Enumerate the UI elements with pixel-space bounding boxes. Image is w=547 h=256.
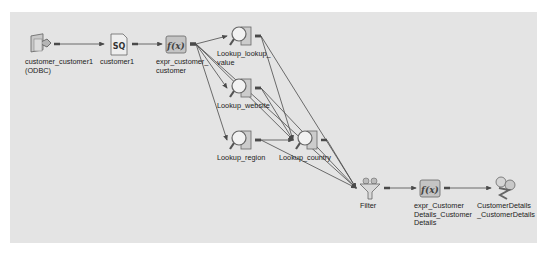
node-label: Lookup_country [279,154,331,163]
expression-transformation-icon[interactable]: f(x) [415,173,445,203]
svg-text:SQ: SQ [113,42,126,51]
filter-transformation-icon[interactable] [355,173,385,203]
node-label: expr_Customer Details_Customer Details [414,202,472,228]
source-definition-icon[interactable] [25,29,55,59]
svg-text:f(x): f(x) [166,41,185,51]
svg-text:f(x): f(x) [420,185,439,195]
node-label: Lookup_lookup_ value [217,50,271,67]
node-label: Lookup_region [217,154,265,163]
lookup-transformation-icon[interactable] [226,125,256,155]
node-label: Filter [360,202,376,211]
node-label: CustomerDetails _CustomerDetails [477,202,535,219]
expression-transformation-icon[interactable]: f(x) [161,29,191,59]
lookup-transformation-icon[interactable] [292,125,322,155]
edge-lk_web-to-lk_country[interactable] [261,88,293,140]
source-qualifier-icon[interactable]: SQ [103,29,133,59]
node-label: Lookup_website [217,102,270,111]
target-definition-icon[interactable] [490,173,520,203]
lookup-transformation-icon[interactable] [226,21,256,51]
edge-expr1-to-lk_value[interactable] [196,36,227,44]
lookup-transformation-icon[interactable] [226,73,256,103]
node-label: customer_customer1 (ODBC) [25,58,93,75]
node-label: expr_customer_ customer [156,58,208,75]
node-label: customer1 [100,58,134,67]
edge-lk_value-to-filter[interactable] [261,36,356,188]
